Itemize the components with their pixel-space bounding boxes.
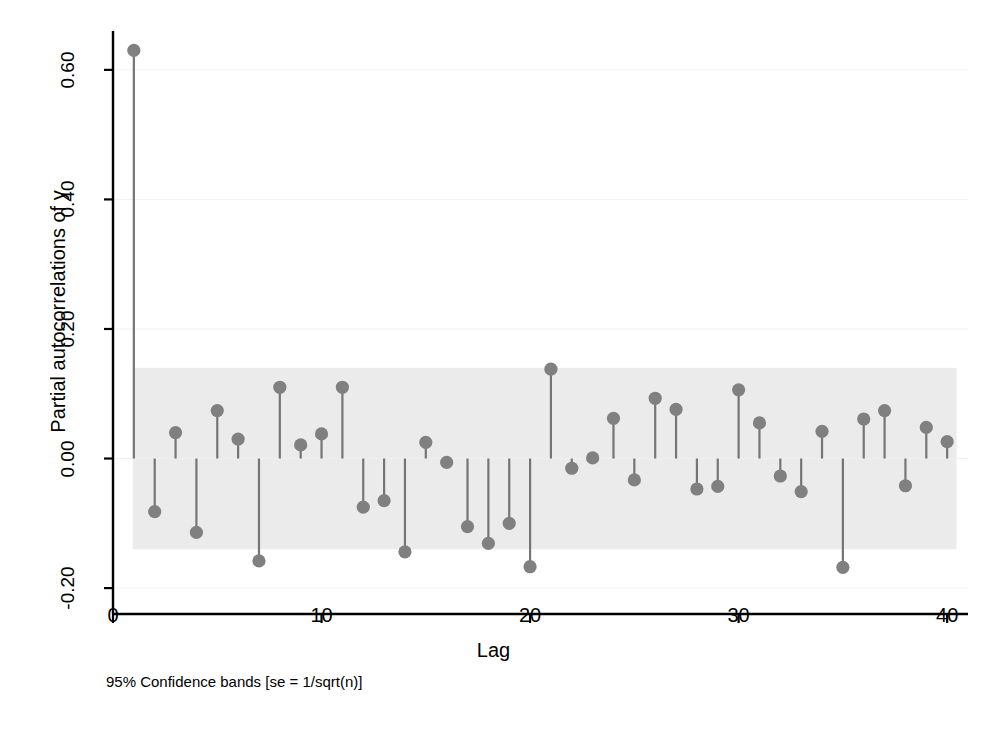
data-point-marker (190, 526, 203, 539)
data-point-marker (649, 392, 662, 405)
data-point-marker (169, 426, 182, 439)
data-point-marker (941, 435, 954, 448)
data-point-marker (586, 451, 599, 464)
data-point-marker (461, 520, 474, 533)
data-point-marker (315, 427, 328, 440)
data-point-marker (836, 561, 849, 574)
data-point-marker (899, 479, 912, 492)
pacf-plot (0, 0, 987, 734)
data-point-marker (565, 462, 578, 475)
x-tick-label: 0 (83, 604, 143, 627)
data-point-marker (669, 403, 682, 416)
data-point-marker (482, 537, 495, 550)
data-point-marker (377, 494, 390, 507)
x-tick-label: 30 (709, 604, 769, 627)
data-point-marker (544, 363, 557, 376)
data-point-marker (419, 436, 432, 449)
x-tick-label: 40 (917, 604, 977, 627)
data-point-marker (628, 473, 641, 486)
x-axis-title: Lag (0, 639, 987, 662)
data-point-marker (607, 412, 620, 425)
data-point-marker (815, 425, 828, 438)
data-point-marker (148, 505, 161, 518)
data-point-marker (503, 517, 516, 530)
data-point-marker (252, 554, 265, 567)
data-point-marker (398, 545, 411, 558)
x-tick-label: 10 (292, 604, 352, 627)
chart-canvas: Partial autocorrelations of y -0.200.000… (0, 0, 987, 734)
data-point-marker (732, 383, 745, 396)
data-point-marker (232, 433, 245, 446)
data-point-marker (878, 404, 891, 417)
data-point-marker (211, 404, 224, 417)
data-point-marker (357, 501, 370, 514)
data-point-marker (294, 438, 307, 451)
confidence-band-note: 95% Confidence bands [se = 1/sqrt(n)] (106, 673, 362, 690)
data-point-marker (795, 485, 808, 498)
data-point-marker (753, 416, 766, 429)
data-point-marker (690, 482, 703, 495)
data-point-marker (273, 381, 286, 394)
data-point-marker (523, 560, 536, 573)
data-point-marker (857, 412, 870, 425)
data-point-marker (711, 480, 724, 493)
data-point-marker (440, 456, 453, 469)
data-point-marker (920, 421, 933, 434)
data-point-marker (774, 469, 787, 482)
x-tick-label: 20 (500, 604, 560, 627)
data-point-marker (336, 381, 349, 394)
data-point-marker (127, 44, 140, 57)
